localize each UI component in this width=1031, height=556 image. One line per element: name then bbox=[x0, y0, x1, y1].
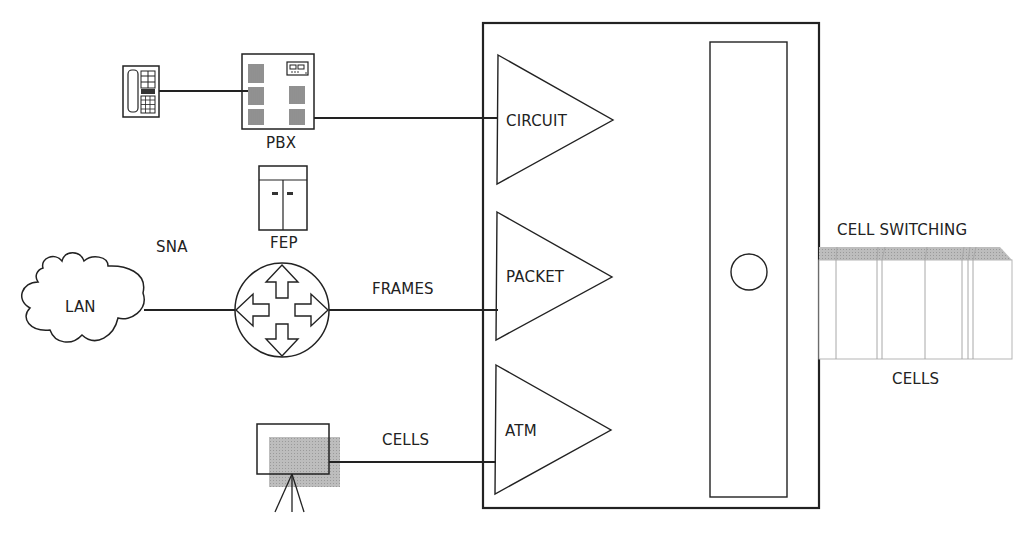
sna-label: SNA bbox=[156, 238, 188, 256]
fep-icon bbox=[259, 166, 307, 230]
pbx-label: PBX bbox=[266, 134, 296, 152]
cells-input-label: CELLS bbox=[382, 431, 429, 449]
atm-label: ATM bbox=[505, 422, 537, 440]
router-icon bbox=[235, 263, 329, 357]
packet-label: PACKET bbox=[506, 268, 565, 286]
telephone-icon bbox=[123, 66, 159, 117]
fep-label: FEP bbox=[270, 234, 298, 252]
frames-label: FRAMES bbox=[372, 280, 434, 298]
cell-stream-icon bbox=[819, 247, 1012, 359]
cells-output-label: CELLS bbox=[892, 370, 939, 388]
diagram-canvas: PBX FEP SNA LAN FRAMES CELLS bbox=[0, 0, 1031, 556]
video-camera-icon bbox=[257, 424, 340, 512]
fabric-port-icon bbox=[731, 254, 767, 290]
lan-label: LAN bbox=[65, 298, 96, 316]
pbx-icon bbox=[242, 54, 314, 129]
switch-fabric bbox=[710, 42, 787, 497]
circuit-label: CIRCUIT bbox=[506, 112, 568, 130]
cell-switching-title: CELL SWITCHING bbox=[837, 221, 967, 239]
